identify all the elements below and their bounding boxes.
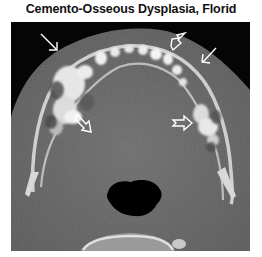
figure-title: Cemento-Osseous Dysplasia, Florid bbox=[0, 2, 262, 16]
ct-scan-image bbox=[11, 22, 250, 251]
